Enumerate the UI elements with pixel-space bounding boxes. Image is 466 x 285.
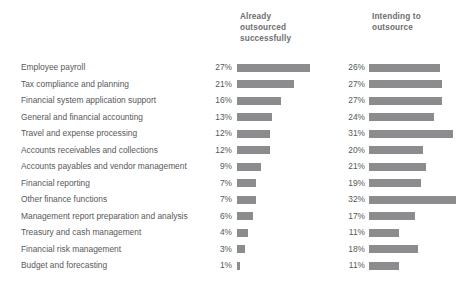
value-label-series1: 16% (196, 94, 232, 107)
bar-series1 (237, 262, 240, 270)
bar-series2 (369, 196, 456, 204)
value-label-series1: 7% (196, 193, 232, 206)
value-label-series1: 12% (196, 144, 232, 157)
category-label: General and financial accounting (21, 111, 143, 124)
bar-series1 (237, 113, 272, 121)
chart-row: Financial reporting7%19% (0, 177, 466, 194)
value-label-series1: 3% (196, 243, 232, 256)
outsourcing-bar-chart: Already outsourced successfully Intendin… (0, 0, 466, 285)
bar-series1 (237, 64, 310, 72)
chart-row: General and financial accounting13%24% (0, 111, 466, 128)
category-label: Tax compliance and planning (21, 78, 129, 91)
bar-series2 (369, 146, 423, 154)
value-label-series2: 24% (329, 111, 365, 124)
value-label-series1: 21% (196, 78, 232, 91)
value-label-series1: 1% (196, 259, 232, 272)
chart-rows: Employee payroll27%26%Tax compliance and… (0, 61, 466, 276)
value-label-series1: 7% (196, 177, 232, 190)
category-label: Budget and forecasting (21, 259, 107, 272)
category-label: Other finance functions (21, 193, 107, 206)
bar-series2 (369, 130, 453, 138)
bar-series1 (237, 245, 245, 253)
chart-row: Financial risk management3%18% (0, 243, 466, 260)
value-label-series2: 27% (329, 78, 365, 91)
chart-row: Treasury and cash management4%11% (0, 226, 466, 243)
bar-series1 (237, 196, 256, 204)
value-label-series2: 11% (329, 226, 365, 239)
value-label-series2: 18% (329, 243, 365, 256)
bar-series2 (369, 229, 399, 237)
value-label-series1: 13% (196, 111, 232, 124)
bar-series1 (237, 130, 270, 138)
value-label-series2: 19% (329, 177, 365, 190)
value-label-series2: 21% (329, 160, 365, 173)
chart-row: Tax compliance and planning21%27% (0, 78, 466, 95)
value-label-series2: 20% (329, 144, 365, 157)
bar-series2 (369, 64, 440, 72)
column-header-intending-to-outsource: Intending to outsource (372, 11, 466, 33)
value-label-series2: 11% (329, 259, 365, 272)
bar-series2 (369, 80, 442, 88)
category-label: Financial system application support (21, 94, 156, 107)
bar-series1 (237, 229, 248, 237)
bar-series2 (369, 163, 426, 171)
bar-series1 (237, 179, 256, 187)
value-label-series2: 27% (329, 94, 365, 107)
bar-series1 (237, 97, 281, 105)
bar-series2 (369, 245, 418, 253)
chart-header: Already outsourced successfully Intendin… (0, 0, 466, 58)
value-label-series2: 31% (329, 127, 365, 140)
category-label: Management report preparation and analys… (21, 210, 188, 223)
bar-series1 (237, 212, 253, 220)
chart-row: Accounts receivables and collections12%2… (0, 144, 466, 161)
value-label-series2: 17% (329, 210, 365, 223)
chart-row: Financial system application support16%2… (0, 94, 466, 111)
chart-row: Employee payroll27%26% (0, 61, 466, 78)
bar-series2 (369, 179, 421, 187)
column-header-already-outsourced: Already outsourced successfully (240, 11, 350, 45)
bar-series1 (237, 163, 261, 171)
chart-row: Accounts payables and vendor management9… (0, 160, 466, 177)
category-label: Financial risk management (21, 243, 121, 256)
value-label-series1: 12% (196, 127, 232, 140)
value-label-series1: 9% (196, 160, 232, 173)
value-label-series2: 32% (329, 193, 365, 206)
chart-row: Other finance functions7%32% (0, 193, 466, 210)
bar-series1 (237, 80, 294, 88)
bar-series2 (369, 262, 399, 270)
value-label-series1: 6% (196, 210, 232, 223)
category-label: Accounts receivables and collections (21, 144, 158, 157)
category-label: Treasury and cash management (21, 226, 141, 239)
value-label-series1: 27% (196, 61, 232, 74)
category-label: Accounts payables and vendor management (21, 160, 187, 173)
bar-series2 (369, 212, 415, 220)
category-label: Financial reporting (21, 177, 90, 190)
category-label: Employee payroll (21, 61, 85, 74)
value-label-series1: 4% (196, 226, 232, 239)
chart-row: Management report preparation and analys… (0, 210, 466, 227)
bar-series2 (369, 113, 434, 121)
chart-row: Travel and expense processing12%31% (0, 127, 466, 144)
bar-series1 (237, 146, 270, 154)
bar-series2 (369, 97, 442, 105)
value-label-series2: 26% (329, 61, 365, 74)
category-label: Travel and expense processing (21, 127, 137, 140)
chart-row: Budget and forecasting1%11% (0, 259, 466, 276)
